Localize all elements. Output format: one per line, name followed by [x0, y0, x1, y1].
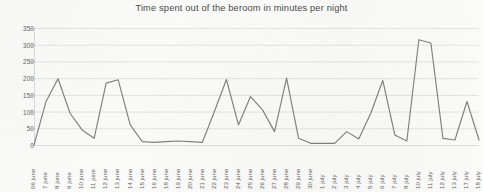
x-tick-label: 18 july	[474, 171, 481, 189]
x-tick-label: 19 june	[174, 169, 181, 189]
x-tick-label: 2 july	[330, 174, 337, 189]
x-tick-label: 7 july	[390, 174, 397, 189]
x-tick-label: 27 june	[270, 169, 277, 189]
x-tick-label: 06 june	[29, 169, 36, 189]
x-tick-label: 13 july	[450, 171, 457, 189]
x-tick-label: 26 june	[258, 169, 265, 189]
x-tick-label: 14 june	[126, 169, 133, 189]
x-tick-label: 7 june	[41, 172, 48, 189]
x-tick-label: 20 june	[186, 169, 193, 189]
x-tick-label: 22 june	[210, 169, 217, 189]
x-tick-label: 12 june	[101, 169, 108, 189]
x-tick-label: 10 june	[77, 169, 84, 189]
x-tick-label: 8 july	[402, 174, 409, 189]
x-tick-label: 15 june	[138, 169, 145, 189]
x-tick-label: 5 july	[366, 174, 373, 189]
x-tick-label: 21 june	[198, 169, 205, 189]
x-tick-label: 3 july	[342, 174, 349, 189]
x-tick-label: 12 july	[438, 171, 445, 189]
x-tick-label: 11 june	[89, 169, 96, 189]
x-tick-label: 18 june	[162, 169, 169, 189]
x-tick-label: 11 july	[426, 171, 433, 189]
x-tick-label: 16 june	[150, 169, 157, 189]
x-tick-label: 30 june	[306, 169, 313, 189]
x-tick-label: 29 june	[294, 169, 301, 189]
x-tick-label: 13 june	[113, 169, 120, 189]
x-tick-label: 9 june	[65, 172, 72, 189]
line-chart: Time spent out of the beroom in minutes …	[0, 0, 483, 192]
x-tick-label: 4 july	[354, 174, 361, 189]
x-tick-label: 24 june	[234, 169, 241, 189]
x-tick-label: 25 june	[246, 169, 253, 189]
x-tick-label: 1 july	[318, 174, 325, 189]
x-tick-label: 28 june	[282, 169, 289, 189]
x-axis: 06 june7 june8 june9 june10 june11 june1…	[0, 0, 483, 192]
x-tick-label: 23 june	[222, 169, 229, 189]
x-tick-label: 17 july	[462, 171, 469, 189]
x-tick-label: 8 june	[53, 172, 60, 189]
x-tick-label: 6 july	[378, 174, 385, 189]
x-tick-label: 10 july	[414, 171, 421, 189]
